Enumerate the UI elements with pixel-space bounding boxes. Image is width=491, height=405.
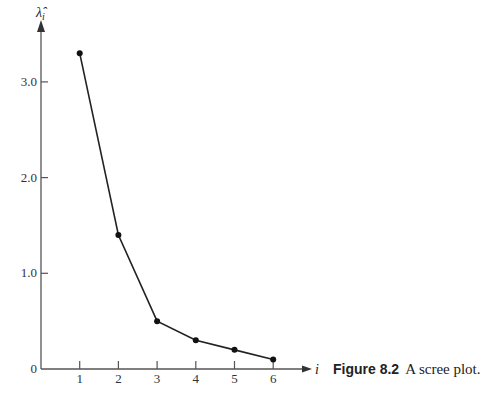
x-tick-label: 5 xyxy=(231,371,238,386)
figure-caption: Figure 8.2A scree plot. xyxy=(333,361,481,378)
y-tick-label: 0 xyxy=(31,361,38,376)
x-tick-label: 1 xyxy=(76,371,83,386)
y-tick-label: 1.0 xyxy=(21,265,37,280)
caption-text: A scree plot. xyxy=(405,361,480,377)
x-tick-label: 2 xyxy=(115,371,122,386)
x-tick-label: 6 xyxy=(270,371,277,386)
y-axis-label: λ̂i xyxy=(35,5,48,22)
y-tick-label: 3.0 xyxy=(21,74,37,89)
axes: iλ̂i01.02.03.0123456 xyxy=(21,5,319,386)
y-tick-label: 2.0 xyxy=(21,170,37,185)
data-series xyxy=(77,50,277,362)
data-point-marker xyxy=(232,347,238,353)
data-point-marker xyxy=(77,50,83,56)
data-point-marker xyxy=(193,337,199,343)
x-tick-label: 3 xyxy=(154,371,161,386)
figure-label: Figure 8.2 xyxy=(333,361,399,377)
scree-line xyxy=(80,53,274,359)
data-point-marker xyxy=(270,356,276,362)
data-point-marker xyxy=(154,318,160,324)
scree-plot: iλ̂i01.02.03.0123456 xyxy=(0,0,491,405)
x-tick-label: 4 xyxy=(193,371,200,386)
data-point-marker xyxy=(115,232,121,238)
x-axis-arrow-icon xyxy=(302,366,312,373)
x-axis-label: i xyxy=(315,362,319,377)
